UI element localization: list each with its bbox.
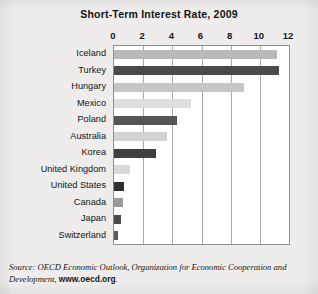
bar-row [114, 112, 289, 129]
category-label-japan: Japan [81, 213, 106, 223]
category-label-canada: Canada [74, 197, 106, 207]
category-label-switzerland: Switzerland [59, 230, 107, 240]
bar-hungary [114, 83, 244, 92]
bar-row [114, 211, 289, 228]
chart-title: Short-Term Interest Rate, 2009 [0, 8, 318, 20]
bar-united-states [114, 182, 124, 191]
bar-row [114, 129, 289, 146]
chart-figure: Short-Term Interest Rate, 2009 024681012… [0, 0, 318, 294]
category-label-united-states: United States [51, 180, 106, 190]
x-axis-tick-labels: 024681012 [0, 30, 318, 44]
category-label-turkey: Turkey [78, 65, 106, 75]
category-label-australia: Australia [70, 131, 106, 141]
bar-poland [114, 116, 177, 125]
bar-united-kingdom [114, 165, 130, 174]
plot-area [113, 45, 290, 245]
bar-turkey [114, 66, 279, 75]
x-tick-6: 6 [198, 30, 203, 41]
source-suffix: . [116, 274, 118, 284]
bar-row [114, 63, 289, 80]
y-axis-category-labels: IcelandTurkeyHungaryMexicoPolandAustrali… [0, 45, 110, 243]
x-tick-10: 10 [254, 30, 265, 41]
bar-mexico [114, 99, 191, 108]
bar-series [114, 46, 289, 244]
bar-row [114, 162, 289, 179]
bar-iceland [114, 50, 277, 59]
source-prefix: Source: OECD Economic Outlook, [9, 262, 129, 272]
bar-row [114, 195, 289, 212]
x-tick-4: 4 [169, 30, 174, 41]
bar-row [114, 228, 289, 245]
category-label-hungary: Hungary [71, 81, 106, 91]
bar-switzerland [114, 231, 118, 240]
category-label-mexico: Mexico [77, 98, 106, 108]
category-label-iceland: Iceland [76, 48, 106, 58]
x-tick-12: 12 [283, 30, 294, 41]
category-label-korea: Korea [81, 147, 106, 157]
x-tick-0: 0 [110, 30, 115, 41]
x-tick-8: 8 [227, 30, 232, 41]
category-label-poland: Poland [77, 114, 106, 124]
bar-canada [114, 198, 123, 207]
x-tick-2: 2 [140, 30, 145, 41]
bar-row [114, 79, 289, 96]
source-divider [0, 255, 318, 256]
bar-row [114, 46, 289, 63]
plot-wrapper: 024681012 IcelandTurkeyHungaryMexicoPola… [0, 30, 318, 250]
category-label-united-kingdom: United Kingdom [41, 164, 106, 174]
bar-row [114, 96, 289, 113]
source-url[interactable]: www.oecd.org [59, 274, 116, 284]
bar-korea [114, 149, 156, 158]
bar-japan [114, 215, 121, 224]
source-note: Source: OECD Economic Outlook, Organizat… [9, 262, 308, 285]
bar-australia [114, 132, 167, 141]
bar-row [114, 178, 289, 195]
bar-row [114, 145, 289, 162]
